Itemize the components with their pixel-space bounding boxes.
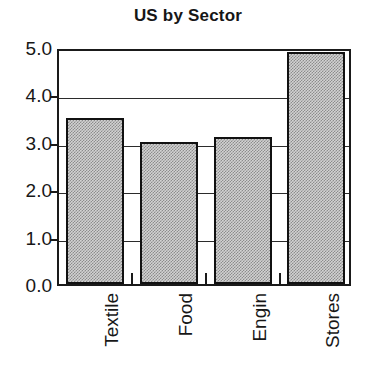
x-axis-tick-mark xyxy=(279,273,281,284)
x-axis-category-label: Textile xyxy=(102,293,121,375)
y-axis-tick-mark xyxy=(50,239,57,241)
bar-chart: US by Sector 0.01.02.03.04.05.0 TextileF… xyxy=(0,0,376,375)
y-axis-tick-label: 3.0 xyxy=(0,134,52,153)
x-axis-tick-mark xyxy=(131,273,133,284)
y-axis-tick-label: 4.0 xyxy=(0,86,52,105)
bar-engin xyxy=(214,137,272,284)
y-axis-tick-mark xyxy=(50,191,57,193)
bar-stores xyxy=(287,52,345,284)
x-axis-tick-mark xyxy=(205,273,207,284)
y-axis-tick-mark xyxy=(50,96,57,98)
bar-textile xyxy=(66,118,124,284)
chart-title: US by Sector xyxy=(0,6,376,26)
y-axis-tick-label: 5.0 xyxy=(0,39,52,58)
plot-area xyxy=(57,49,351,286)
bar-food xyxy=(140,142,198,284)
y-axis-tick-label: 1.0 xyxy=(0,229,52,248)
y-axis-tick-label: 0.0 xyxy=(0,276,52,295)
x-axis-category-label: Stores xyxy=(323,293,342,375)
y-axis-tick-label: 2.0 xyxy=(0,181,52,200)
x-axis-category-label: Food xyxy=(176,293,195,375)
x-axis-category-label: Engin xyxy=(250,293,269,375)
y-axis-tick-mark xyxy=(50,144,57,146)
